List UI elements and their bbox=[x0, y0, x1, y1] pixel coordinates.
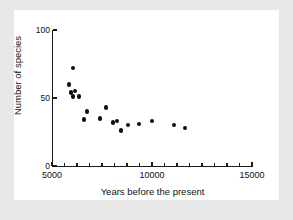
x-tick-label: 15000 bbox=[222, 170, 282, 180]
data-point bbox=[104, 105, 109, 110]
data-point bbox=[73, 89, 78, 94]
y-axis-label: Number of species bbox=[12, 21, 23, 131]
data-point bbox=[71, 66, 76, 71]
data-point bbox=[77, 94, 82, 99]
y-tick-label: 100 bbox=[2, 26, 50, 35]
y-tick-label: 50 bbox=[2, 94, 50, 103]
data-point bbox=[85, 109, 90, 114]
data-points-layer bbox=[52, 30, 252, 166]
data-point bbox=[150, 119, 155, 124]
x-tick-label: 5000 bbox=[22, 170, 82, 180]
data-point bbox=[71, 94, 76, 99]
data-point bbox=[172, 123, 177, 128]
data-point bbox=[82, 117, 87, 122]
data-point bbox=[119, 128, 124, 133]
data-point bbox=[115, 119, 120, 124]
data-point bbox=[183, 126, 188, 131]
data-point bbox=[98, 116, 103, 121]
x-axis-label: Years before the present bbox=[52, 186, 253, 197]
x-tick-label: 10000 bbox=[122, 170, 182, 180]
data-point bbox=[67, 82, 72, 87]
data-point bbox=[137, 122, 142, 127]
y-axis-tick-labels: 050100 bbox=[0, 0, 50, 180]
data-point bbox=[126, 123, 131, 128]
scatter-chart-figure: 050100 50001000015000 Years before the p… bbox=[0, 0, 293, 220]
